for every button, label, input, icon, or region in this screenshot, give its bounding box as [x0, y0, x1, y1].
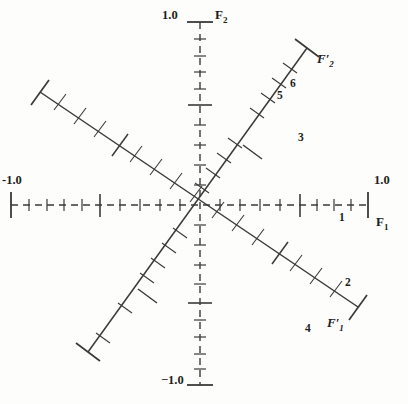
axis-f1-prime-cap-neg — [31, 80, 49, 105]
axis-f2-prime-tick-neghalf — [138, 289, 157, 303]
plot-svg — [0, 0, 408, 404]
axis-f2-name-base: F — [215, 7, 223, 22]
axis-f1-prime-name-sub: 1 — [339, 323, 344, 333]
axis-f2-prime-name: F′2 — [317, 52, 334, 69]
axis-f1-name-sub: 1 — [384, 222, 389, 232]
axis-f2-prime-name-base: F′ — [317, 51, 329, 66]
axis-f1-name-base: F — [376, 214, 384, 229]
axis-f1-prime-line — [40, 92, 358, 307]
axis-f2-min-label: −1.0 — [161, 374, 184, 387]
axis-f2-name-sub: 2 — [223, 15, 228, 25]
annotation-number-3: 3 — [298, 132, 304, 144]
axis-f1-min-label: -1.0 — [2, 174, 22, 187]
annotation-number-6: 6 — [290, 78, 296, 90]
axis-f1-prime-name: F′1 — [327, 316, 344, 333]
annotation-number-4: 4 — [305, 323, 311, 335]
axis-f1-prime-tick-poshalf — [272, 242, 288, 264]
axis-f2-prime-tick-poshalf — [243, 145, 262, 159]
axis-f2-prime-cap-pos — [295, 39, 319, 57]
axis-f1-name: F1 — [376, 215, 388, 232]
axis-f1-prime-name-base: F′ — [327, 315, 339, 330]
axis-f2-prime-line — [88, 48, 307, 352]
axis-f1-prime-tick-neghalf — [112, 134, 128, 156]
axis-f2-prime-cap-neg — [76, 343, 100, 361]
axis-f2-max-label: 1.0 — [162, 9, 178, 22]
figure-canvas: 1.0 F2 −1.0 -1.0 1.0 F1 F′2 F′1 1 2 3 4 … — [0, 0, 408, 404]
annotation-number-5: 5 — [277, 90, 283, 102]
axis-f1-horizontal — [11, 192, 368, 218]
axis-f2-name: F2 — [215, 8, 227, 25]
axis-f2-prime-rotated — [76, 39, 319, 361]
annotation-number-1: 1 — [339, 212, 345, 224]
axis-f2-vertical — [187, 22, 213, 385]
axis-f2-prime-name-sub: 2 — [329, 59, 334, 69]
annotation-number-2: 2 — [345, 277, 351, 289]
axis-f1-max-label: 1.0 — [374, 174, 390, 187]
axis-f1-prime-cap-pos — [349, 295, 367, 320]
